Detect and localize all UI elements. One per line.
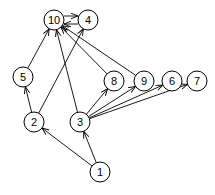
node-label: 4 (85, 14, 91, 26)
node-label: 7 (194, 75, 200, 87)
node-7: 7 (187, 71, 207, 91)
node-label: 2 (31, 116, 37, 128)
node-3: 3 (70, 112, 90, 132)
node-5: 5 (13, 67, 33, 87)
node-label: 8 (111, 75, 117, 87)
node-label: 5 (20, 71, 26, 83)
node-8: 8 (104, 71, 124, 91)
edges-layer (25, 16, 187, 166)
node-label: 3 (77, 116, 83, 128)
edge-3-to-10 (56, 30, 77, 113)
node-2: 2 (24, 112, 44, 132)
edge-9-to-10 (62, 26, 135, 76)
edge-2-to-5 (25, 87, 31, 113)
edge-5-to-10 (28, 29, 49, 68)
node-10: 10 (44, 10, 64, 30)
edge-8-to-10 (61, 27, 107, 74)
node-label: 10 (48, 14, 60, 26)
edge-1-to-3 (84, 131, 97, 162)
node-9: 9 (134, 71, 154, 91)
edge-3-to-6 (89, 85, 163, 118)
edge-2-to-4 (39, 29, 84, 113)
node-label: 1 (97, 166, 103, 178)
node-1: 1 (90, 162, 110, 182)
node-6: 6 (162, 71, 182, 91)
node-label: 6 (169, 75, 175, 87)
edge-3-to-8 (86, 89, 107, 115)
directed-graph: 10458967231 (0, 0, 215, 195)
node-4: 4 (78, 10, 98, 30)
nodes-layer: 10458967231 (13, 10, 207, 182)
node-label: 9 (141, 75, 147, 87)
